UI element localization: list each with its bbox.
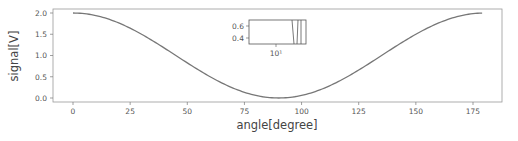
x-tick-label: 25 xyxy=(125,107,135,116)
x-tick-label: 75 xyxy=(240,107,250,116)
inset-xtick: 10¹ xyxy=(270,49,283,58)
inset-ytick: 0.6 xyxy=(232,22,244,31)
x-tick-label: 125 xyxy=(352,107,367,116)
x-axis-label: angle[degree] xyxy=(236,118,317,132)
y-axis-label: signal[V] xyxy=(7,31,21,82)
y-tick-label: 0.5 xyxy=(35,73,47,82)
x-tick-label: 100 xyxy=(294,107,309,116)
inset-ytick: 0.4 xyxy=(232,34,244,43)
x-tick-label: 0 xyxy=(71,107,76,116)
y-tick-label: 1.5 xyxy=(35,30,47,39)
x-tick-label: 50 xyxy=(183,107,193,116)
x-axis: 0255075100125150175 xyxy=(71,102,481,116)
y-tick-label: 0.0 xyxy=(35,94,47,103)
x-tick-label: 175 xyxy=(466,107,481,116)
y-tick-label: 1.0 xyxy=(35,51,47,60)
chart: 0.00.51.01.52.0 0255075100125150175 angl… xyxy=(0,0,518,141)
y-axis: 0.00.51.01.52.0 xyxy=(35,9,53,103)
x-tick-label: 150 xyxy=(409,107,424,116)
y-tick-label: 2.0 xyxy=(35,9,47,18)
